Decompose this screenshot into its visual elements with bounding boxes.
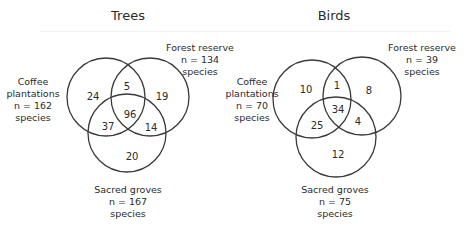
trees-title: Trees [111, 8, 145, 23]
trees-forest-only: 19 [156, 91, 169, 103]
set-count: n = 134 [166, 54, 234, 66]
trees-sacred-label: Sacred groves n = 167 species [94, 184, 162, 220]
trees-sacred-only: 20 [126, 151, 139, 163]
set-count: n = 75 [301, 196, 369, 208]
birds-coffee-only: 10 [300, 84, 313, 96]
trees-all-three: 96 [124, 109, 137, 121]
birds-forest-only: 8 [366, 85, 372, 97]
set-unit: species [166, 66, 234, 78]
trees-forest-label: Forest reserve n = 134 species [166, 42, 234, 78]
set-count: n = 70 [225, 100, 278, 112]
set-name: Forest reserve [388, 42, 456, 54]
set-name: Forest reserve [166, 42, 234, 54]
trees-forest-sacred: 14 [145, 122, 158, 134]
set-unit: species [94, 208, 162, 220]
birds-coffee-label: Coffee plantations n = 70 species [225, 76, 278, 124]
set-name: plantations [225, 88, 278, 100]
set-name: Coffee [225, 76, 278, 88]
set-name: Coffee [6, 76, 59, 88]
birds-sacred-only: 12 [332, 149, 345, 161]
birds-forest-label: Forest reserve n = 39 species [388, 42, 456, 78]
birds-title: Birds [318, 8, 351, 23]
trees-coffee-sacred: 37 [102, 121, 115, 133]
set-unit: species [301, 208, 369, 220]
set-unit: species [6, 112, 59, 124]
birds-sacred-label: Sacred groves n = 75 species [301, 184, 369, 220]
set-count: n = 162 [6, 100, 59, 112]
set-count: n = 167 [94, 196, 162, 208]
birds-forest-sacred: 4 [355, 116, 361, 128]
trees-coffee-label: Coffee plantations n = 162 species [6, 76, 59, 124]
set-unit: species [388, 66, 456, 78]
set-name: Sacred groves [94, 184, 162, 196]
birds-all-three: 34 [332, 104, 345, 116]
title-divider [40, 31, 450, 32]
venn-figure: Trees Coffee plantations n = 162 species… [0, 0, 476, 230]
set-count: n = 39 [388, 54, 456, 66]
trees-coffee-forest: 5 [124, 81, 130, 93]
set-name: Sacred groves [301, 184, 369, 196]
set-name: plantations [6, 88, 59, 100]
set-unit: species [225, 112, 278, 124]
birds-coffee-sacred: 25 [311, 120, 324, 132]
trees-coffee-only: 24 [87, 91, 100, 103]
birds-coffee-forest: 1 [334, 80, 340, 92]
